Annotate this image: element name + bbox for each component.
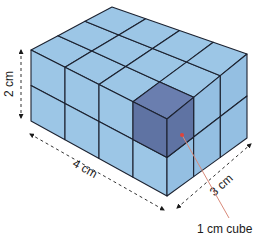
cuboid-diagram: 2 cm 4 cm 3 cm 1 cm cube bbox=[0, 0, 260, 239]
length-label: 4 cm bbox=[70, 156, 100, 181]
callout-label: 1 cm cube bbox=[197, 222, 253, 236]
depth-label: 3 cm bbox=[207, 171, 236, 199]
height-label: 2 cm bbox=[2, 71, 16, 97]
callout-dot bbox=[180, 133, 184, 137]
height-dimension: 2 cm bbox=[2, 50, 21, 118]
